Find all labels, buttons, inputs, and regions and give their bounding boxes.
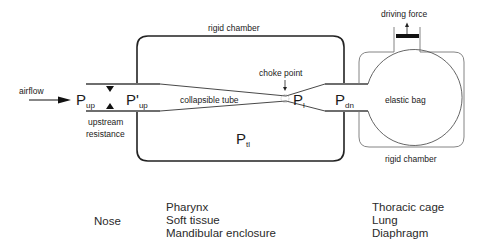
p-up-label: Pup (76, 91, 95, 110)
right-rigid-chamber (359, 27, 464, 147)
airflow-arrowhead (58, 97, 71, 104)
upstream-resistance-bottom-marker (106, 103, 114, 109)
p-tl-label: Ptl (236, 130, 250, 149)
downstream-tube-bottom-flare (286, 101, 325, 111)
driving-force-label: driving force (381, 9, 428, 19)
p-dn-label: Pdn (335, 91, 354, 110)
driving-piston (396, 34, 419, 38)
driving-force-arrowhead (405, 23, 409, 28)
p-l-label: Pl (293, 91, 305, 110)
upstream-resistance-top-marker (106, 86, 114, 92)
anatomy-driving-1: Lung (372, 214, 398, 226)
choke-point-label: choke point (259, 68, 303, 78)
anatomy-collapsible-1: Soft tissue (166, 214, 220, 226)
rigid-chamber-top-label: rigid chamber (208, 23, 260, 33)
anatomy-upstream-0: Nose (94, 215, 121, 227)
downstream-tube-top-flare (286, 84, 325, 96)
choke-point-arrowhead (283, 87, 287, 91)
airflow-label: airflow (19, 86, 44, 96)
elastic-bag-label: elastic bag (385, 95, 426, 105)
collapsible-tube-label: collapsible tube (180, 95, 239, 105)
anatomy-driving-2: Diaphragm (372, 227, 428, 239)
starling-resistor-airway-diagram: airflow rigid chamber choke point collap… (0, 0, 480, 251)
upstream-resistance-label-line2: resistance (86, 129, 125, 139)
p-up-prime-label: P'up (126, 91, 148, 110)
rigid-chamber-right-label: rigid chamber (385, 154, 437, 164)
upstream-resistance-label-line1: upstream (88, 117, 123, 127)
anatomy-driving-0: Thoracic cage (372, 201, 444, 213)
anatomy-collapsible-2: Mandibular enclosure (166, 227, 276, 239)
anatomy-collapsible-0: Pharynx (166, 201, 208, 213)
